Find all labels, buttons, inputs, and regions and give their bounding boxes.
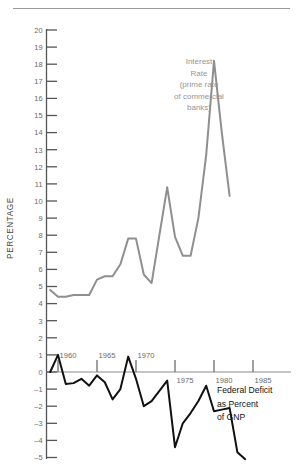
y-tick-label-7: 7 <box>38 248 42 257</box>
x-tick-label-1960: 1960 <box>60 351 77 360</box>
y-tick-label-4: 4 <box>38 299 42 308</box>
y-axis: 20191817161514131211109876543210–1–2–3–4… <box>34 26 57 463</box>
y-tick-label--3: –3 <box>34 419 42 428</box>
interest-rate-text-line-2: Rate <box>191 69 208 78</box>
y-tick-label-2: 2 <box>38 334 42 343</box>
y-tick-label-9: 9 <box>38 214 42 223</box>
y-tick-label-1: 1 <box>38 351 42 360</box>
y-tick-label-12: 12 <box>34 163 42 172</box>
y-tick-label--2: –2 <box>34 402 42 411</box>
federal-deficit-text-line-1: Federal Deficit <box>217 385 273 395</box>
y-tick-label-5: 5 <box>38 282 42 291</box>
y-tick-label-11: 11 <box>35 180 43 189</box>
x-tick-label-1970: 1970 <box>138 351 155 360</box>
y-tick-label-8: 8 <box>38 231 42 240</box>
y-tick-label-16: 16 <box>34 94 42 103</box>
interest-rate-annotation: InterestRate(prime rateof commercialbank… <box>174 57 224 112</box>
interest-rate-text-line-4: of commercial <box>174 92 224 101</box>
y-tick-label-18: 18 <box>34 60 42 69</box>
y-tick-label-20: 20 <box>34 26 42 35</box>
federal-deficit-annotation: Federal Deficitas Percentof GNP <box>217 385 273 422</box>
y-tick-label-10: 10 <box>34 197 42 206</box>
x-tick-label-1985: 1985 <box>255 376 272 385</box>
x-axis: 196019651970197519801985 <box>58 351 271 385</box>
y-tick-label-13: 13 <box>34 146 42 155</box>
interest-rate-text-line-5: banks) <box>187 103 211 112</box>
y-tick-label-19: 19 <box>34 43 42 52</box>
y-tick-label-14: 14 <box>34 128 42 137</box>
y-tick-label-0: 0 <box>38 368 42 377</box>
economic-indicators-chart: 20191817161514131211109876543210–1–2–3–4… <box>0 0 298 470</box>
y-tick-label--5: –5 <box>34 453 42 462</box>
interest-rate-text-line-3: (prime rate <box>180 80 219 89</box>
y-tick-label-15: 15 <box>34 111 42 120</box>
y-tick-label--1: –1 <box>34 385 42 394</box>
federal-deficit-text-line-2: as Percent <box>217 399 259 409</box>
y-tick-label-6: 6 <box>38 265 42 274</box>
x-tick-label-1980: 1980 <box>216 376 233 385</box>
y-tick-label-17: 17 <box>34 77 42 86</box>
x-tick-label-1975: 1975 <box>177 376 194 385</box>
federal-deficit-line <box>50 355 245 459</box>
x-tick-label-1965: 1965 <box>99 351 116 360</box>
y-tick-label--4: –4 <box>34 436 42 445</box>
y-tick-label-3: 3 <box>38 317 42 326</box>
federal-deficit-text-line-3: of GNP <box>217 412 245 422</box>
y-axis-title: PERCENTAGE <box>6 197 15 259</box>
interest-rate-text-line-1: Interest <box>186 57 213 66</box>
